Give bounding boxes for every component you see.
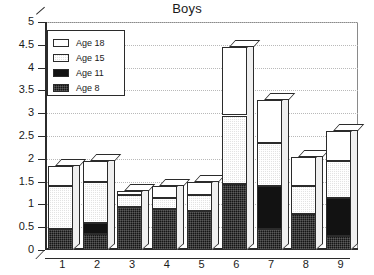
bar-side-face: [73, 159, 80, 250]
legend-swatch-icon-age11: [53, 69, 69, 77]
bar-segment-age15: [291, 186, 316, 213]
bar-segment-age18: [222, 47, 247, 115]
x-axis-tick-label: 9: [324, 258, 358, 270]
legend-swatch-icon-age8: [53, 84, 69, 92]
bar-side-face: [282, 93, 289, 250]
bar-side-face: [108, 155, 115, 250]
y-axis-tick: [38, 90, 45, 91]
x-axis-tick-label: 4: [150, 258, 184, 270]
bar-segment-age15: [117, 195, 142, 206]
bar-4[interactable]: [152, 186, 177, 250]
legend-item-age15: Age 15: [48, 50, 124, 65]
bar-side-face: [247, 41, 254, 250]
y-axis-tick: [38, 68, 45, 69]
bar-segment-age8: [117, 207, 142, 250]
legend-label-age15: Age 15: [76, 53, 105, 63]
bar-segment-age18: [83, 161, 108, 182]
legend-item-age18: Age 18: [48, 35, 124, 50]
y-axis-tick-label: 0: [0, 243, 34, 255]
y-axis-tick: [38, 22, 45, 23]
bar-8[interactable]: [291, 157, 316, 250]
bar-top-face: [333, 124, 364, 131]
y-axis-tick-label: 4.5: [0, 38, 34, 50]
bar-segment-age8: [257, 229, 282, 250]
bar-segment-age18: [291, 157, 316, 187]
y-axis-tick: [38, 159, 45, 160]
bar-segment-age15: [83, 182, 108, 223]
y-axis-tick: [38, 113, 45, 114]
y-axis-tick: [38, 182, 45, 183]
legend-item-age8: Age 8: [48, 80, 124, 95]
y-axis-tick-label: 3: [0, 106, 34, 118]
x-axis-tick-label: 7: [254, 258, 288, 270]
bar-segment-age15: [152, 198, 177, 209]
bar-segment-age18: [187, 182, 212, 196]
y-axis-tick: [38, 204, 45, 205]
bar-2[interactable]: [83, 161, 108, 250]
y-axis-tick: [38, 45, 45, 46]
bar-segment-age18: [152, 186, 177, 197]
y-axis-tick: [38, 227, 45, 228]
bar-segment-age15: [187, 195, 212, 211]
y-axis-tick-label: 5: [0, 15, 34, 27]
legend-item-age11: Age 11: [48, 65, 124, 80]
bar-segment-age18: [48, 166, 73, 187]
bar-segment-age18: [326, 131, 351, 161]
x-axis-tick-label: 5: [185, 258, 219, 270]
y-axis-tick-label: 1: [0, 197, 34, 209]
y-axis-tick-label: 4: [0, 61, 34, 73]
chart-legend: Age 18 Age 15 Age 11 Age 8: [47, 30, 125, 96]
x-axis-tick-label: 1: [45, 258, 79, 270]
bar-segment-age11: [326, 198, 351, 237]
legend-label-age18: Age 18: [76, 38, 105, 48]
bar-5[interactable]: [187, 182, 212, 250]
bar-side-face: [177, 180, 184, 250]
bar-7[interactable]: [257, 100, 282, 250]
bar-segment-age15: [48, 186, 73, 229]
bar-segment-age8: [326, 236, 351, 250]
bar-segment-age8: [291, 214, 316, 250]
bar-1[interactable]: [48, 166, 73, 250]
bar-segment-age8: [222, 184, 247, 250]
bar-segment-age11: [83, 223, 108, 234]
bar-segment-age8: [152, 209, 177, 250]
bar-side-face: [351, 125, 358, 250]
y-axis-tick-label: 3.5: [0, 83, 34, 95]
y-axis-tick-label: 1.5: [0, 175, 34, 187]
y-axis-tick-label: 2.5: [0, 129, 34, 141]
bar-segment-age18: [257, 100, 282, 143]
bar-3[interactable]: [117, 191, 142, 250]
bar-segment-age15: [326, 161, 351, 197]
y-axis-tick-label: 2: [0, 152, 34, 164]
legend-swatch-icon-age15: [53, 54, 69, 62]
bar-segment-age15: [222, 116, 247, 184]
bar-side-face: [212, 175, 219, 250]
bar-6[interactable]: [222, 47, 247, 250]
chart-title: Boys: [0, 1, 374, 16]
x-axis-tick-label: 2: [80, 258, 114, 270]
bar-segment-age8: [187, 211, 212, 250]
y-axis-tick-label: 0.5: [0, 220, 34, 232]
bar-segment-age8: [48, 229, 73, 250]
bar-side-face: [142, 184, 149, 250]
bar-segment-age8: [83, 234, 108, 250]
bar-9[interactable]: [326, 131, 351, 250]
y-axis-tick: [38, 136, 45, 137]
legend-label-age8: Age 8: [76, 83, 100, 93]
x-axis-tick-label: 8: [289, 258, 323, 270]
bar-segment-age15: [257, 143, 282, 186]
bar-segment-age18: [117, 191, 142, 196]
x-axis-tick-label: 3: [115, 258, 149, 270]
x-axis-tick-label: 6: [219, 258, 253, 270]
legend-label-age11: Age 11: [76, 68, 104, 78]
chart-container: Boys 00.511.522.533.544.55 123456789 Age…: [0, 0, 374, 275]
bar-side-face: [316, 150, 323, 250]
bar-segment-age11: [257, 186, 282, 229]
legend-swatch-icon-age18: [53, 39, 69, 47]
